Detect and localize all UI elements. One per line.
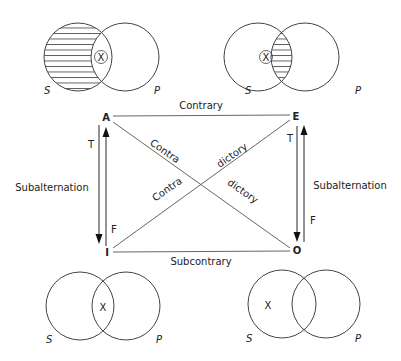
venn-a-mark: X — [98, 52, 105, 63]
corner-e: E — [293, 111, 300, 122]
venn-i-p-label: P — [156, 334, 163, 345]
label-subalternation-left: Subalternation — [15, 182, 89, 193]
venn-e-s-label: S — [245, 85, 252, 96]
label-subcontrary: Subcontrary — [170, 256, 231, 267]
venn-o-p-label: P — [355, 333, 362, 344]
label-f-right: F — [310, 215, 316, 226]
arrow-down-icon — [96, 234, 103, 244]
square-lines — [113, 115, 290, 252]
venn-a-p-label: P — [154, 85, 161, 96]
arrow-up-icon — [301, 125, 308, 135]
label-t-right: T — [286, 133, 294, 144]
arrow-down-icon — [294, 232, 301, 242]
corner-a: A — [102, 112, 110, 123]
corner-o: O — [293, 245, 302, 256]
venn-o: X S P — [246, 270, 362, 344]
label-contrary: Contrary — [179, 100, 223, 111]
venn-o-mark: X — [265, 300, 272, 311]
label-contradictory-1b: dictory — [226, 177, 261, 206]
venn-e: X S P — [224, 23, 362, 96]
label-contradictory-2a: Contra — [150, 175, 184, 203]
venn-a: X S P — [40, 20, 161, 96]
square-of-opposition: X S P X S P A E I O Contrary Subcontrary… — [0, 0, 401, 361]
arrow-up-icon — [103, 127, 110, 137]
label-subalternation-right: Subalternation — [313, 180, 387, 191]
venn-i-s-label: S — [46, 334, 53, 345]
venn-i: X S P — [46, 272, 163, 345]
subalternation-arrows-right — [294, 125, 308, 242]
venn-e-mark: X — [263, 52, 270, 63]
venn-e-p-label: P — [355, 85, 362, 96]
venn-a-s-label: S — [44, 85, 51, 96]
label-contradictory-2b: dictory — [215, 141, 250, 170]
label-t-left: T — [87, 139, 95, 150]
label-f-left: F — [111, 224, 117, 235]
venn-i-mark: X — [100, 302, 107, 313]
diagram-canvas: X S P X S P A E I O Contrary Subcontrary… — [0, 0, 401, 361]
subalternation-arrows-left — [96, 125, 110, 246]
corner-i: I — [105, 247, 109, 258]
venn-o-s-label: S — [246, 333, 253, 344]
